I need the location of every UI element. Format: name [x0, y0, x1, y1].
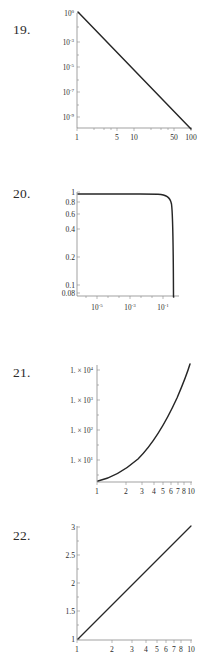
plot-20-canvas: 1 0.8 0.6 0.4 0.2 0.1 0.08	[40, 168, 199, 333]
x-tick-label: 50	[170, 133, 178, 142]
x-tick-label: 1	[95, 487, 99, 496]
plot-19-x-ticks	[77, 128, 191, 131]
y-tick-label: 0.4	[66, 225, 76, 234]
x-tick-label: 5	[115, 133, 119, 142]
plot-22-x-ticks	[77, 640, 191, 643]
plot-22-y-ticklabels: 3 2.5 2 1.5 1	[66, 523, 76, 644]
plot-22-canvas: 3 2.5 2 1.5 1	[40, 500, 199, 671]
plot-21-data-line	[98, 364, 190, 481]
x-tick-label: 10	[187, 645, 195, 654]
page-root: 19. 100 10-3 10-5 10-7 10-9	[0, 0, 199, 671]
plot-20-y-ticks	[77, 192, 80, 293]
x-tick-label: 10	[130, 133, 138, 142]
figure-22: 22. 3 2.5 2 1.5 1	[0, 500, 199, 671]
y-tick-label: 10-5	[63, 63, 75, 72]
plot-20-x-ticklabels: 10-5 10-3 10-1	[91, 303, 169, 312]
y-tick-label: 1	[71, 188, 75, 197]
x-tick-label: 8	[182, 487, 186, 496]
plot-20-y-ticklabels: 1 0.8 0.6 0.4 0.2 0.1 0.08	[62, 188, 76, 298]
plot-21-y-ticks	[97, 370, 100, 475]
plot-22-data-line	[78, 526, 191, 639]
plot-19-x-ticklabels: 1 5 10 50 100	[75, 133, 197, 142]
figure-21-number: 21.	[13, 365, 31, 381]
y-tick-label: 1	[71, 635, 75, 644]
y-tick-label: 1. × 103	[70, 396, 93, 405]
y-tick-label: 1.5	[66, 607, 76, 616]
plot-22-x-ticklabels: 1 2 3 4 5 6 7 8 10	[75, 645, 195, 654]
x-tick-label: 8	[179, 645, 183, 654]
x-tick-label: 3	[130, 645, 134, 654]
x-tick-label: 10-5	[91, 303, 103, 312]
y-tick-label: 2.5	[66, 551, 76, 560]
x-tick-label: 5	[155, 645, 159, 654]
y-tick-label: 1. × 104	[70, 366, 93, 375]
figure-20-number: 20.	[13, 186, 31, 202]
plot-21-canvas: 1. × 104 1. × 103 1. × 102 1. × 101	[40, 332, 199, 500]
plot-20-data-line	[78, 194, 174, 297]
plot-21-x-ticks	[97, 482, 191, 485]
x-tick-label: 2	[110, 645, 114, 654]
figure-19-number: 19.	[13, 22, 31, 38]
x-tick-label: 100	[185, 133, 197, 142]
plot-19-y-ticks	[77, 13, 80, 117]
x-tick-label: 7	[172, 645, 176, 654]
plot-22-y-ticks	[77, 527, 80, 639]
y-tick-label: 0.2	[66, 253, 76, 262]
figure-22-number: 22.	[13, 528, 31, 544]
plot-19-canvas: 100 10-3 10-5 10-7 10-9	[40, 0, 199, 170]
y-tick-label: 0.8	[66, 198, 76, 207]
x-tick-label: 6	[169, 487, 173, 496]
x-tick-label: 3	[140, 487, 144, 496]
figure-21: 21. 1. × 104 1. × 103 1. × 102 1. × 101	[0, 332, 199, 500]
x-tick-label: 10	[187, 487, 195, 496]
figure-19: 19. 100 10-3 10-5 10-7 10-9	[0, 0, 199, 170]
x-tick-label: 10-3	[124, 303, 136, 312]
x-tick-label: 5	[161, 487, 165, 496]
x-tick-label: 10-1	[157, 303, 169, 312]
y-tick-label: 3	[71, 523, 75, 532]
y-tick-label: 10-7	[63, 88, 75, 97]
plot-19-data-line	[78, 12, 191, 129]
y-tick-label: 100	[64, 9, 74, 18]
x-tick-label: 1	[75, 133, 79, 142]
plot-21-y-ticklabels: 1. × 104 1. × 103 1. × 102 1. × 101	[70, 366, 93, 465]
plot-21-x-ticklabels: 1 2 3 4 5 6 7 8 10	[95, 487, 195, 496]
figure-20: 20. 1 0.8 0.6 0.4 0.2 0.1 0.08	[0, 168, 199, 333]
plot-20-x-ticks	[86, 296, 174, 299]
x-tick-label: 1	[75, 645, 79, 654]
y-tick-label: 1. × 102	[70, 426, 93, 435]
y-tick-label: 0.6	[66, 210, 76, 219]
y-tick-label: 1. × 101	[70, 456, 93, 465]
plot-19-y-ticklabels: 100 10-3 10-5 10-7 10-9	[63, 9, 75, 122]
x-tick-label: 6	[164, 645, 168, 654]
y-tick-label: 10-3	[63, 38, 75, 47]
x-tick-label: 2	[124, 487, 128, 496]
x-tick-label: 4	[152, 487, 156, 496]
x-tick-label: 4	[144, 645, 148, 654]
y-tick-label: 10-9	[63, 113, 75, 122]
y-tick-label: 0.08	[62, 289, 75, 298]
y-tick-label: 2	[71, 579, 75, 588]
x-tick-label: 7	[176, 487, 180, 496]
